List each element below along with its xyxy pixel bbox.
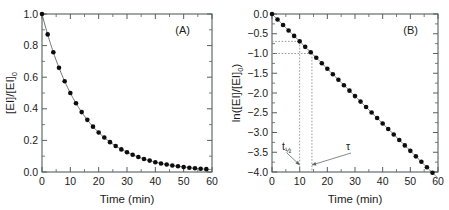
data-point — [204, 167, 209, 172]
data-point — [353, 94, 358, 99]
data-point — [85, 118, 90, 123]
data-point — [79, 110, 84, 115]
data-point — [136, 155, 141, 160]
y-tick-label: −1.0 — [247, 47, 268, 59]
panel-b-y-axis-title: ln([EI]/[EI]0) — [230, 64, 245, 123]
data-point — [275, 17, 280, 22]
data-point — [125, 150, 130, 155]
panel-a-y-axis-title-main: [EI]/[EI] — [4, 76, 16, 114]
panel-b-letter: (B) — [403, 24, 418, 36]
panel-b-y-axis-title-suffix: ) — [230, 64, 242, 68]
data-point — [164, 162, 169, 167]
data-point — [51, 50, 56, 55]
panel-b: 0102030405060 0.0−0.5−1.0−1.5−2.0−2.5−3.… — [225, 0, 449, 210]
panel-a-frame — [42, 14, 212, 172]
panel-b-y-axis-title-prefix: ln([EI]/[EI] — [230, 72, 242, 123]
data-point — [314, 56, 319, 61]
y-tick-label: 0.2 — [23, 134, 38, 146]
x-tick-label: 0 — [39, 175, 45, 187]
x-tick-label: 50 — [404, 175, 416, 187]
data-point — [325, 66, 330, 71]
data-point — [119, 147, 124, 152]
data-point — [45, 32, 50, 37]
x-tick-label: 30 — [121, 175, 133, 187]
y-tick-label: 0.0 — [23, 166, 38, 178]
panel-b-x-ticklabels: 0102030405060 — [269, 175, 444, 187]
panel-a-curve — [42, 14, 212, 170]
annotation-label-tau: τ — [346, 140, 351, 152]
y-tick-label: 0.6 — [23, 71, 38, 83]
panel-a-y-axis-title-sub: 0 — [10, 72, 19, 76]
y-tick-label: −1.5 — [247, 67, 268, 79]
data-point — [369, 110, 374, 115]
y-tick-label: −3.0 — [247, 126, 268, 138]
data-point — [408, 149, 413, 154]
y-tick-label: −2.0 — [247, 87, 268, 99]
data-point — [142, 157, 147, 162]
data-point — [181, 165, 186, 170]
panel-a-svg: 0102030405060 0.00.20.40.60.81.0 Time (m… — [0, 0, 225, 210]
data-point — [375, 116, 380, 121]
x-tick-label: 0 — [269, 175, 275, 187]
data-point — [336, 77, 341, 82]
panel-b-x-axis-title: Time (min) — [328, 193, 383, 205]
data-point — [303, 45, 308, 50]
data-point — [391, 132, 396, 137]
data-point — [297, 39, 302, 44]
x-tick-label: 50 — [178, 175, 190, 187]
x-tick-label: 40 — [149, 175, 161, 187]
data-point — [176, 164, 181, 169]
data-point — [414, 154, 419, 159]
data-point — [281, 23, 286, 28]
data-point — [425, 165, 430, 170]
panel-b-annotations: t½τ — [282, 140, 351, 166]
data-point — [108, 140, 113, 145]
x-tick-label: 40 — [377, 175, 389, 187]
data-point — [270, 12, 275, 17]
data-point — [292, 34, 297, 39]
data-point — [198, 166, 203, 171]
data-point — [147, 158, 152, 163]
data-point — [286, 28, 291, 33]
data-point — [331, 72, 336, 77]
data-point — [193, 166, 198, 171]
data-point — [397, 138, 402, 143]
panel-b-axes — [272, 14, 438, 172]
data-point — [57, 65, 62, 70]
data-point — [130, 152, 135, 157]
data-point — [419, 160, 424, 165]
annotation-arrowhead-tau — [312, 162, 317, 166]
y-tick-label: 0.4 — [23, 102, 38, 114]
x-tick-label: 30 — [349, 175, 361, 187]
panel-a: 0102030405060 0.00.20.40.60.81.0 Time (m… — [0, 0, 225, 210]
panel-b-frame — [272, 14, 438, 172]
y-tick-label: −0.5 — [247, 27, 268, 39]
data-point — [380, 121, 385, 126]
data-point — [358, 99, 363, 104]
panel-a-y-ticklabels: 0.00.20.40.60.81.0 — [23, 8, 38, 178]
y-tick-label: −4.0 — [247, 166, 268, 178]
annotation-arrow-tau — [312, 153, 351, 165]
data-point — [102, 135, 107, 140]
x-tick-label: 60 — [206, 175, 218, 187]
y-tick-label: −2.5 — [247, 106, 268, 118]
data-point — [91, 124, 96, 129]
data-point — [159, 161, 164, 166]
data-point — [153, 160, 158, 165]
panel-b-svg: 0102030405060 0.0−0.5−1.0−1.5−2.0−2.5−3.… — [225, 0, 449, 210]
data-point — [386, 127, 391, 132]
data-point — [364, 105, 369, 110]
data-point — [40, 12, 45, 17]
y-tick-label: −3.5 — [247, 146, 268, 158]
data-point — [74, 101, 79, 106]
panel-a-x-axis-title: Time (min) — [100, 193, 155, 205]
data-point — [96, 130, 101, 135]
panel-b-y-ticklabels: 0.0−0.5−1.0−1.5−2.0−2.5−3.0−3.5−4.0 — [247, 8, 268, 178]
data-point — [187, 165, 192, 170]
x-tick-label: 20 — [93, 175, 105, 187]
data-point — [113, 144, 118, 149]
x-tick-label: 10 — [294, 175, 306, 187]
data-point — [403, 143, 408, 148]
data-point — [62, 79, 67, 84]
panel-a-y-axis-title: [EI]/[EI]0 — [4, 72, 19, 114]
